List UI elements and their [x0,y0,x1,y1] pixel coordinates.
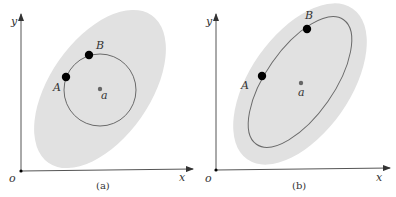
y-axis-label: y [205,15,213,28]
point-A [258,72,266,80]
caption-a: (a) [96,180,110,191]
origin-dot [19,169,22,172]
panel-b: y x o A B a (b) [205,0,394,191]
label-B: B [304,9,313,22]
label-B: B [95,39,104,52]
point-A [62,73,70,81]
caption-b: (b) [292,180,306,191]
x-axis [216,168,390,170]
label-A: A [52,81,61,94]
point-B [303,25,311,33]
origin-label: o [9,172,16,185]
point-B [85,51,93,59]
label-A: A [240,79,249,92]
x-axis-label: x [179,171,186,184]
figure: y x o A B a (a) y x o A B a (b) [0,0,396,197]
label-center-a: a [298,86,305,99]
origin-label: o [205,172,212,185]
origin-dot [214,168,217,171]
y-axis-label: y [10,15,18,28]
center-dot-a [299,81,303,85]
gray-region [7,0,192,191]
label-center-a: a [101,89,108,102]
panel-a: y x o A B a (a) [7,0,193,191]
x-axis [21,169,193,171]
x-axis-label: x [376,171,383,184]
